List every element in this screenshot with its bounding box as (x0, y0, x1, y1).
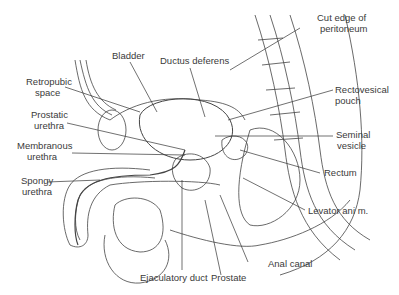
label-membranous-line1: Membranous (17, 140, 72, 151)
label-bladder: Bladder (112, 50, 145, 61)
label-rectum: Rectum (324, 167, 357, 178)
label-spongy-line1: Spongy (21, 175, 53, 186)
label-seminal-line2: vesicle (337, 140, 366, 151)
label-levator-ani: Levator ani m. (308, 205, 368, 216)
label-anal-canal: Anal canal (268, 258, 312, 269)
label-prostatic-line2: urethra (34, 120, 64, 131)
label-cut-edge-line2: peritoneum (320, 23, 368, 34)
label-retropubic-line2: space (35, 87, 60, 98)
label-seminal-line1: Seminal (336, 129, 370, 140)
label-rectovesical-line2: pouch (335, 95, 361, 106)
label-ductus-deferens: Ductus deferens (160, 55, 229, 66)
label-prostatic-line1: Prostatic (31, 109, 68, 120)
label-prostate: Prostate (211, 272, 246, 283)
anatomy-diagram: Bladder Ductus deferens Cut edge of peri… (0, 0, 399, 295)
label-spongy-line2: urethra (22, 186, 52, 197)
label-rectovesical-line1: Rectovesical (335, 84, 389, 95)
label-retropubic-line1: Retropubic (26, 76, 72, 87)
label-cut-edge-line1: Cut edge of (317, 12, 366, 23)
label-membranous-line2: urethra (27, 151, 57, 162)
label-ejaculatory-duct: Ejaculatory duct (140, 272, 208, 283)
